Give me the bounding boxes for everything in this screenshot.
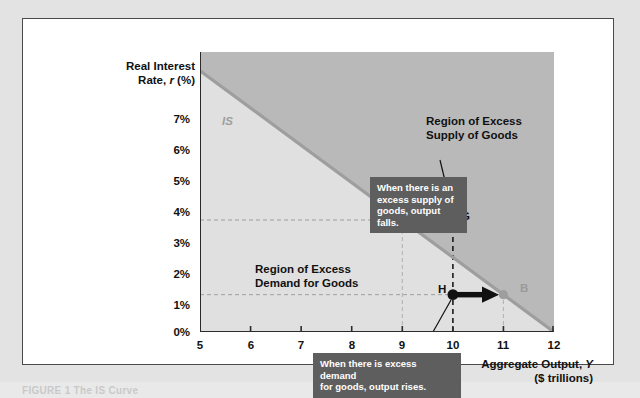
y-tick-label-6: 6% bbox=[150, 145, 190, 156]
y-tick-label-0: 0% bbox=[150, 327, 190, 338]
y-axis-title-line2-pre: Rate, bbox=[138, 74, 169, 86]
region-excess-supply-label: Region of Excess Supply of Goods bbox=[426, 114, 522, 142]
callout-excess-supply: When there is an excess supply of goods,… bbox=[370, 177, 467, 233]
y-axis-title-line1: Real Interest bbox=[126, 60, 195, 72]
y-tick-label-5: 5% bbox=[150, 176, 190, 187]
x-axis-title-variable: Y bbox=[585, 358, 593, 370]
x-tick-label-6: 6 bbox=[236, 339, 266, 351]
x-axis-title-line2: ($ trillions) bbox=[534, 372, 593, 384]
callout-excess-demand: When there is excess demand for goods, o… bbox=[313, 353, 461, 398]
x-tick-label-7: 7 bbox=[286, 339, 316, 351]
region-excess-demand-label: Region of Excess Demand for Goods bbox=[255, 262, 359, 290]
x-tick-label-8: 8 bbox=[337, 339, 367, 351]
x-axis-title-line1-pre: Aggregate Output, bbox=[481, 358, 585, 370]
figure-panel: Real Interest Rate, r (%) Aggregate Outp… bbox=[22, 18, 614, 365]
x-tick-label-9: 9 bbox=[387, 339, 417, 351]
figure-caption: FIGURE 1 The IS Curve bbox=[22, 385, 138, 398]
y-tick-label-2: 2% bbox=[150, 269, 190, 280]
is-curve-label: IS bbox=[222, 115, 233, 127]
figure-root: Real Interest Rate, r (%) Aggregate Outp… bbox=[0, 0, 640, 398]
point-label-H: H bbox=[438, 284, 446, 295]
point-label-B: B bbox=[520, 283, 528, 294]
x-tick-label-11: 11 bbox=[488, 339, 518, 351]
y-axis-title-line2-post: (%) bbox=[174, 74, 195, 86]
x-tick-label-5: 5 bbox=[185, 339, 215, 351]
y-tick-label-1: 1% bbox=[150, 300, 190, 311]
x-axis-title: Aggregate Output, Y ($ trillions) bbox=[443, 357, 593, 385]
y-tick-label-7: 7% bbox=[150, 114, 190, 125]
x-tick-label-12: 12 bbox=[539, 339, 569, 351]
y-tick-label-3: 3% bbox=[150, 238, 190, 249]
x-tick-label-10: 10 bbox=[438, 339, 468, 351]
y-tick-label-4: 4% bbox=[150, 207, 190, 218]
point-H bbox=[448, 289, 459, 300]
y-axis-title: Real Interest Rate, r (%) bbox=[83, 59, 195, 87]
point-B bbox=[499, 290, 508, 299]
